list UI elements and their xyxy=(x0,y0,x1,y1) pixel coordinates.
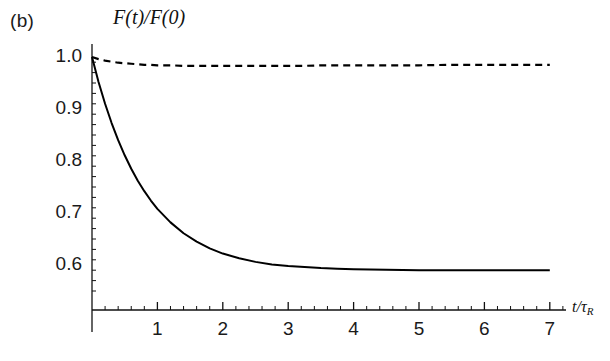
figure-panel-b: (b) F(t)/F(0) t/τR 0.60.70.80.91.0 12345… xyxy=(0,0,610,361)
x-tick-label: 4 xyxy=(342,318,366,340)
x-tick-label: 2 xyxy=(211,318,235,340)
curve-dashed-curve xyxy=(92,57,550,66)
y-tick-label: 0.8 xyxy=(36,149,82,171)
x-tick-label: 6 xyxy=(472,318,496,340)
x-tick-label: 5 xyxy=(407,318,431,340)
plot-canvas xyxy=(0,0,610,361)
y-tick-label: 0.7 xyxy=(36,201,82,223)
curve-solid-curve xyxy=(92,57,550,270)
x-tick-label: 7 xyxy=(538,318,562,340)
y-tick-label: 0.9 xyxy=(36,97,82,119)
y-tick-label: 1.0 xyxy=(36,45,82,67)
x-tick-label: 3 xyxy=(276,318,300,340)
x-tick-label: 1 xyxy=(145,318,169,340)
axes xyxy=(92,44,566,332)
y-tick-label: 0.6 xyxy=(36,253,82,275)
data-curves xyxy=(92,57,550,270)
